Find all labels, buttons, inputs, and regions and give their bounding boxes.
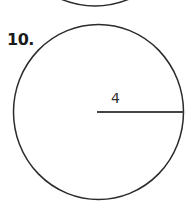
radius-label: 4 xyxy=(111,90,120,106)
problem-number: 10. xyxy=(7,30,34,49)
previous-circle-arc xyxy=(50,0,140,6)
